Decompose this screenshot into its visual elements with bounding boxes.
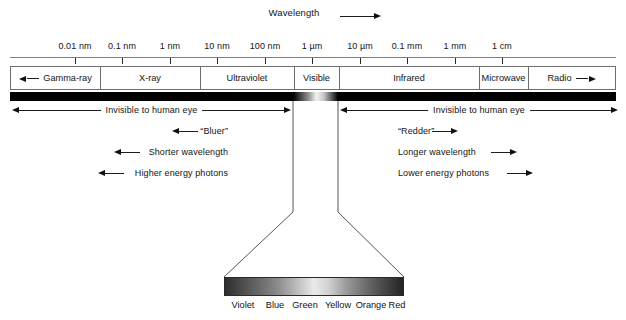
arrow-right-line — [576, 78, 588, 79]
scale-tick-label: 1 nm — [160, 41, 180, 51]
band-radio: Radio — [528, 67, 615, 89]
visible-color-label-green: Green — [292, 300, 318, 310]
arrow-left-line — [27, 78, 39, 79]
invisible-range-label: Invisible to human eye — [428, 105, 530, 115]
scale-tick-label: 0.1 nm — [108, 41, 136, 51]
visible-color-label-blue: Blue — [266, 300, 284, 310]
band-x-ray: X-ray — [100, 67, 200, 89]
visible-band-callout-funnel — [0, 95, 626, 285]
scale-tick-label: 0.1 mm — [392, 41, 423, 51]
scale-tick — [75, 58, 76, 64]
band-label: Ultraviolet — [227, 73, 268, 83]
scale-tick-label: 10 µm — [347, 41, 373, 51]
funnel-left-edge — [224, 101, 293, 277]
visible-color-label-yellow: Yellow — [325, 300, 351, 310]
scale-tick-label: 10 nm — [204, 41, 230, 51]
arrow-right-icon — [374, 13, 381, 19]
funnel-right-edge — [338, 101, 404, 277]
scale-tick — [312, 58, 313, 64]
scale-tick-label: 100 nm — [250, 41, 281, 51]
wavelength-title-arrow-line — [340, 16, 376, 17]
band-infrared: Infrared — [339, 67, 479, 89]
band-label: Microwave — [482, 73, 526, 83]
band-label: Radio — [547, 73, 571, 83]
band-label: X-ray — [139, 73, 161, 83]
wavelength-title: Wavelength — [269, 8, 320, 18]
scale-tick-label: 0.01 nm — [58, 41, 91, 51]
band-microwave: Microwave — [479, 67, 528, 89]
band-label-with-arrow: Radio — [547, 73, 595, 83]
visible-color-label-red: Red — [389, 300, 406, 310]
scale-tick — [122, 58, 123, 64]
band-ultraviolet: Ultraviolet — [200, 67, 294, 89]
scale-tick-label: 1 cm — [492, 41, 512, 51]
scale-tick-label: 1 µm — [302, 41, 323, 51]
scale-tick — [502, 58, 503, 64]
em-spectrum-diagram: Wavelength 0.01 nm0.1 nm1 nm10 nm100 nm1… — [0, 0, 626, 320]
scale-tick — [455, 58, 456, 64]
wavelength-axis-line — [10, 57, 616, 58]
band-visible: Visible — [294, 67, 339, 89]
wavelength-title-text: Wavelength — [269, 7, 320, 18]
scale-tick — [360, 58, 361, 64]
scale-tick — [407, 58, 408, 64]
visible-spectrum-strip — [224, 277, 404, 296]
arrow-left-icon — [19, 76, 26, 82]
spectrum-band-row: Gamma-rayX-rayUltravioletVisibleInfrared… — [10, 66, 616, 90]
scale-tick-label: 1 mm — [444, 41, 467, 51]
band-label: Visible — [303, 73, 330, 83]
invisible-range-label: Invisible to human eye — [101, 105, 203, 115]
band-gamma-ray: Gamma-ray — [11, 67, 100, 89]
band-label: Gamma-ray — [43, 73, 92, 83]
visible-color-label-orange: Orange — [356, 300, 387, 310]
scale-tick — [217, 58, 218, 64]
visible-color-label-violet: Violet — [232, 300, 255, 310]
band-label-with-arrow: Gamma-ray — [19, 73, 92, 83]
scale-tick — [170, 58, 171, 64]
arrow-right-icon — [589, 76, 596, 82]
scale-tick — [265, 58, 266, 64]
band-label: Infrared — [393, 73, 425, 83]
